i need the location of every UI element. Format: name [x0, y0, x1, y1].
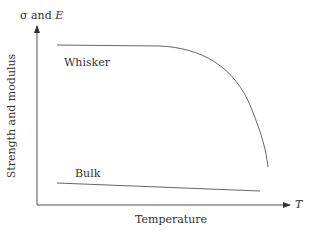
x-axis-symbol: T — [295, 199, 302, 210]
diagram-canvas — [0, 0, 317, 236]
y-symbol-prefix: σ and — [20, 9, 55, 22]
x-axis-title: Temperature — [135, 214, 207, 225]
y-axis-title: Strength and modulus — [5, 54, 18, 178]
y-symbol-var: E — [55, 9, 63, 22]
bulk-label: Bulk — [75, 168, 100, 179]
whisker-label: Whisker — [64, 57, 110, 68]
y-axis-symbol: σ and E — [20, 10, 63, 21]
bulk-curve — [57, 183, 260, 191]
